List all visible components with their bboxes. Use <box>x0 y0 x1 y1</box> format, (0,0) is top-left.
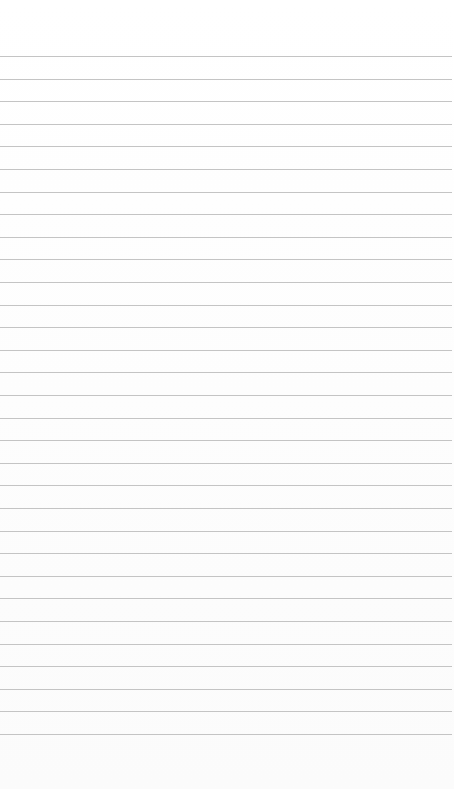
ruled-line <box>0 192 452 193</box>
ruled-line <box>0 350 452 351</box>
ruled-line <box>0 372 452 373</box>
ruled-line <box>0 598 452 599</box>
ruled-line <box>0 169 452 170</box>
ruled-line <box>0 101 452 102</box>
lined-paper <box>0 0 454 789</box>
ruled-line <box>0 463 452 464</box>
ruled-line <box>0 621 452 622</box>
ruled-line <box>0 124 452 125</box>
ruled-line <box>0 146 452 147</box>
ruled-line <box>0 734 452 735</box>
ruled-line <box>0 79 452 80</box>
ruled-line <box>0 214 452 215</box>
ruled-line <box>0 327 452 328</box>
ruled-line <box>0 282 452 283</box>
ruled-line <box>0 485 452 486</box>
ruled-line <box>0 644 452 645</box>
ruled-line <box>0 689 452 690</box>
ruled-line <box>0 711 452 712</box>
ruled-line <box>0 553 452 554</box>
ruled-line <box>0 305 452 306</box>
ruled-line <box>0 576 452 577</box>
ruled-line <box>0 237 452 238</box>
ruled-line <box>0 440 452 441</box>
ruled-line <box>0 56 452 57</box>
ruled-line <box>0 666 452 667</box>
ruled-line <box>0 418 452 419</box>
ruled-line <box>0 395 452 396</box>
ruled-line <box>0 508 452 509</box>
ruled-line <box>0 259 452 260</box>
ruled-line <box>0 531 452 532</box>
